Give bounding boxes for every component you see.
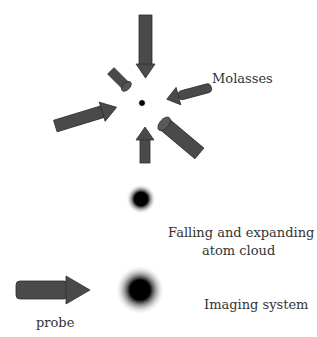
falling-cloud-label-line1: Falling and expanding — [168, 225, 314, 240]
laser-beam-arrow-upper-left — [107, 67, 134, 94]
falling-cloud-label-line2: atom cloud — [202, 243, 275, 258]
expanded-atom-cloud — [115, 265, 165, 315]
falling-atom-cloud — [126, 184, 156, 214]
laser-beam-arrow-left — [52, 98, 119, 136]
mot-imaging-diagram: Molasses Falling and expanding atom clou… — [0, 0, 317, 337]
laser-beam-arrow-lower-right — [156, 115, 205, 160]
laser-beam-arrow-top — [136, 15, 155, 78]
diagram-graphics — [0, 0, 317, 337]
probe-label: probe — [36, 315, 74, 330]
imaging-system-label: Imaging system — [204, 297, 308, 312]
laser-beam-arrow-bottom — [136, 127, 154, 163]
probe-beam-arrow — [16, 276, 90, 304]
trapped-atom-cloud — [138, 99, 146, 107]
molasses-label: Molasses — [212, 71, 273, 86]
laser-beam-arrow-right — [164, 79, 213, 108]
